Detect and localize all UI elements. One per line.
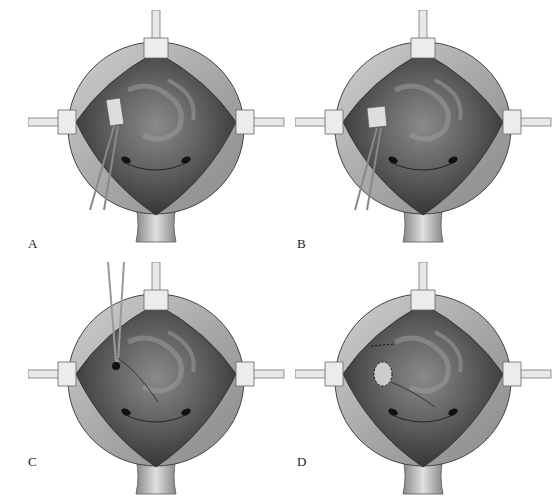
panel-d: D [295, 262, 555, 502]
bladder-illustration [295, 10, 555, 250]
panel-b: B [295, 10, 555, 250]
panel-c: C [28, 262, 288, 502]
bladder-illustration [295, 262, 555, 502]
panel-label-c: C [28, 454, 37, 470]
bladder-illustration [28, 10, 288, 250]
panel-label-d: D [297, 454, 306, 470]
panel-label-b: B [297, 236, 306, 252]
panel-label-a: A [28, 236, 37, 252]
bladder-illustration [28, 262, 288, 502]
panel-a: A [28, 10, 288, 250]
